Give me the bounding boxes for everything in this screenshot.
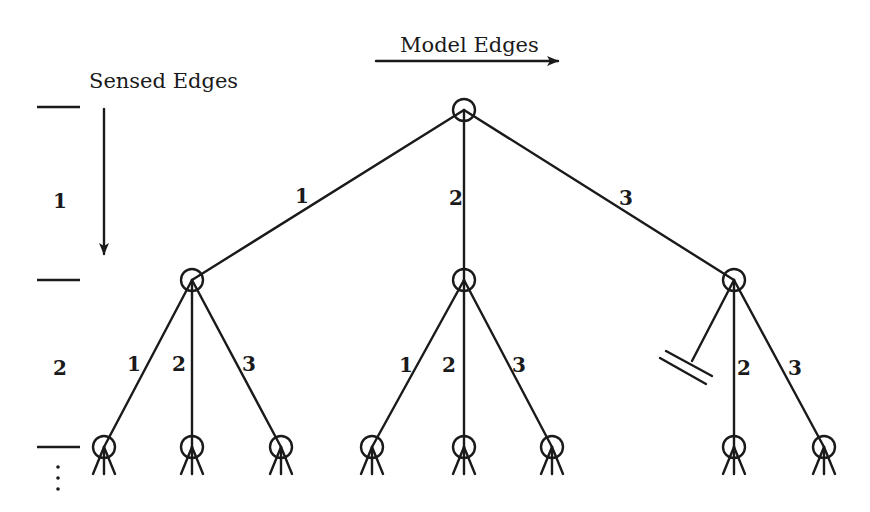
level-label-2: 2: [53, 356, 67, 380]
root-edges: 1 2 3: [192, 110, 734, 280]
edge-root-1: [192, 110, 464, 280]
edge-root-3: [464, 110, 734, 280]
edge-label-n2-3: 3: [512, 353, 526, 377]
edge-label-n1-1: 1: [127, 352, 141, 376]
edge-label-n2-2: 2: [442, 353, 456, 377]
sensed-edges-label: Sensed Edges: [89, 69, 238, 93]
edge-label-n3-3: 3: [788, 356, 802, 380]
pruned-edge: [692, 280, 734, 361]
leaf-node: [93, 436, 115, 474]
edge-label-root-3: 3: [619, 186, 633, 210]
edge-label-n1-3: 3: [242, 352, 256, 376]
model-edges-label: Model Edges: [400, 33, 539, 57]
leaf-node: [813, 436, 835, 474]
leaf-node: [361, 436, 383, 474]
edge-label-n1-2: 2: [172, 352, 186, 376]
interpretation-tree-diagram: Model Edges Sensed Edges 1 2 1 2 3 1 2 3: [0, 0, 870, 512]
leaf-node: [541, 436, 563, 474]
edge-label-root-1: 1: [295, 184, 309, 208]
subtree-3-edges: 2 3: [660, 280, 824, 447]
edge-label-n3-2: 2: [737, 356, 751, 380]
pruned-branch-cut-icon: [660, 351, 712, 384]
level-label-1: 1: [53, 189, 67, 213]
edge-label-n2-1: 1: [399, 353, 413, 377]
edge-label-root-2: 2: [449, 186, 463, 210]
subtree-1-edges: 1 2 3: [104, 280, 281, 447]
leaf-node: [270, 436, 292, 474]
subtree-2-edges: 1 2 3: [372, 280, 552, 447]
continuation-dots-icon: [56, 465, 60, 491]
level-markers: 1 2: [37, 107, 80, 491]
